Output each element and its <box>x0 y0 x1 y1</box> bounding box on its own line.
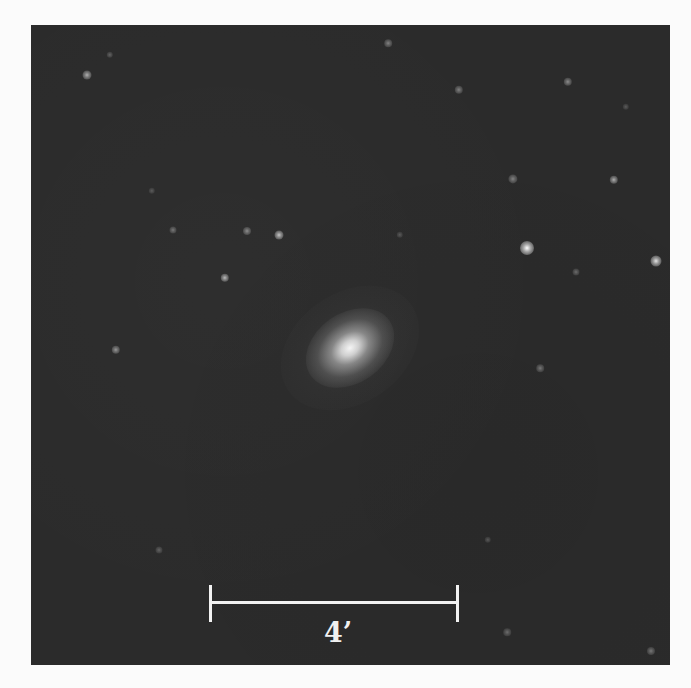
astronomical-image: 4’ <box>31 25 670 665</box>
star <box>503 628 511 636</box>
scale-bar-label: 4’ <box>324 617 352 648</box>
star <box>651 256 662 267</box>
star <box>170 227 177 234</box>
star <box>573 269 580 276</box>
star <box>83 71 92 80</box>
star <box>275 231 284 240</box>
star <box>536 364 544 372</box>
star <box>384 39 392 47</box>
star <box>647 647 655 655</box>
star <box>520 241 534 255</box>
page: 4’ <box>0 0 691 688</box>
scale-bar-line <box>209 601 459 604</box>
star <box>156 547 163 554</box>
star <box>243 227 251 235</box>
scale-bar-right-tick <box>456 585 459 622</box>
